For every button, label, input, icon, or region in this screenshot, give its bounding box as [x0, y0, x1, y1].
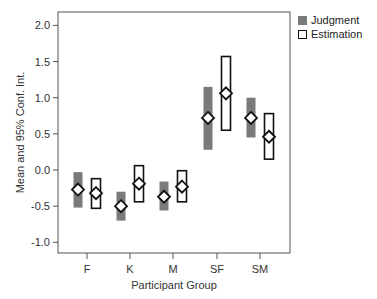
x-tick-label: F: [84, 263, 91, 275]
y-tick-label: 2.0: [35, 19, 50, 31]
judgment-swatch-icon: [298, 16, 307, 25]
estimation-swatch-icon: [298, 30, 307, 39]
x-tick-label: SM: [252, 263, 269, 275]
y-tick-label: 1.5: [35, 56, 50, 68]
y-tick-label: -1.0: [31, 236, 50, 248]
x-tick-label: SF: [210, 263, 224, 275]
y-axis-label: Mean and 95% Conf. Int.: [14, 72, 26, 194]
error-bar-chart: -1.0-0.50.00.51.01.52.0Mean and 95% Conf…: [0, 0, 377, 299]
y-tick-label: 0.0: [35, 164, 50, 176]
y-tick-label: -0.5: [31, 200, 50, 212]
legend: Judgment Estimation: [298, 13, 362, 41]
legend-item-estimation: Estimation: [298, 27, 362, 41]
y-tick-label: 0.5: [35, 128, 50, 140]
x-tick-label: K: [126, 263, 134, 275]
legend-label-estimation: Estimation: [311, 28, 362, 40]
legend-label-judgment: Judgment: [311, 14, 359, 26]
y-tick-label: 1.0: [35, 92, 50, 104]
x-tick-label: M: [168, 263, 177, 275]
legend-item-judgment: Judgment: [298, 13, 362, 27]
x-axis-label: Participant Group: [131, 279, 217, 291]
